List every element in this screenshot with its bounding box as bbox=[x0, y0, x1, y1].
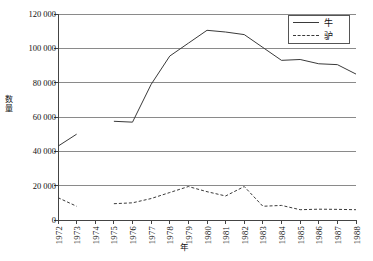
x-axis-title: 年 bbox=[180, 240, 189, 252]
legend-item-cattle: 牛 bbox=[289, 16, 349, 29]
x-tick-label: 1982 bbox=[240, 226, 250, 244]
y-axis-title: 数 量 bbox=[2, 95, 16, 113]
y-tick-label: 0 bbox=[12, 215, 56, 225]
x-tick-label: 1985 bbox=[296, 226, 306, 244]
legend-swatch-solid-icon bbox=[293, 22, 319, 24]
chart-container: 数 量 020 00040 00060 00080 000100 000120 … bbox=[0, 0, 373, 261]
y-tick-label: 120 000 bbox=[12, 9, 56, 19]
y-tick-label: 40 000 bbox=[12, 146, 56, 156]
x-tick-label: 1972 bbox=[54, 226, 64, 244]
x-tick-label: 1988 bbox=[352, 226, 362, 244]
series-lines bbox=[58, 30, 356, 209]
x-tick-label: 1980 bbox=[203, 226, 213, 244]
legend: 牛 驴 bbox=[288, 15, 350, 44]
y-tick-label: 80 000 bbox=[12, 78, 56, 88]
legend-item-donkey: 驴 bbox=[289, 29, 349, 42]
y-tick-label: 100 000 bbox=[12, 43, 56, 53]
axis-ticks bbox=[54, 14, 356, 224]
x-tick-label: 1977 bbox=[147, 226, 157, 244]
x-tick-label: 1978 bbox=[165, 226, 175, 244]
x-tick-label: 1987 bbox=[333, 226, 343, 244]
series-line-1 bbox=[58, 198, 77, 207]
series-line-0 bbox=[58, 134, 77, 146]
x-tick-label: 1986 bbox=[314, 226, 324, 244]
legend-label-cattle: 牛 bbox=[324, 18, 333, 28]
x-tick-label: 1976 bbox=[128, 226, 138, 244]
legend-label-donkey: 驴 bbox=[324, 31, 333, 41]
x-tick-label: 1984 bbox=[277, 226, 287, 244]
x-tick-label: 1983 bbox=[258, 226, 268, 244]
y-tick-label: 60 000 bbox=[12, 112, 56, 122]
series-line-0 bbox=[114, 30, 356, 122]
legend-swatch-dashed-icon bbox=[293, 35, 319, 37]
gridlines bbox=[58, 14, 356, 220]
x-tick-label: 1975 bbox=[109, 226, 119, 244]
x-tick-label: 1981 bbox=[221, 226, 231, 244]
y-tick-label: 20 000 bbox=[12, 181, 56, 191]
series-line-1 bbox=[114, 187, 356, 210]
y-axis-title-char-1: 数 bbox=[2, 95, 16, 104]
x-tick-label: 1973 bbox=[72, 226, 82, 244]
x-tick-label: 1974 bbox=[91, 226, 101, 244]
